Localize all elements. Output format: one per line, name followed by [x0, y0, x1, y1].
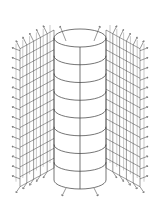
lattice-horizontal [106, 79, 140, 98]
lattice-horizontal [20, 40, 54, 59]
lattice-horizontal [20, 109, 54, 128]
lattice-horizontal [106, 168, 140, 187]
lattice-horizontal [20, 138, 54, 157]
vector-arrow-icon [36, 29, 40, 37]
lattice-horizontal [106, 109, 140, 128]
lattice-horizontal [20, 69, 54, 88]
lattice-horizontal [106, 60, 140, 79]
vector-arrow-icon [30, 33, 34, 41]
vector-arrow-icon [94, 26, 100, 41]
lattice-horizontal [106, 89, 140, 108]
lattice-horizontal [106, 99, 140, 118]
lattice-horizontal [106, 50, 140, 69]
cylinder-ring [54, 38, 106, 47]
lattice-horizontal [106, 69, 140, 88]
lattice-horizontal [20, 60, 54, 79]
lattice-horizontal [20, 119, 54, 138]
vector-arrow-icon [126, 33, 130, 41]
lattice-horizontal [20, 99, 54, 118]
lattice-horizontal [20, 168, 54, 187]
vector-arrow-icon [113, 26, 117, 34]
vector-arrow-icon [133, 37, 137, 45]
lattice-horizontal [106, 148, 140, 167]
vector-arrow-icon [60, 26, 66, 41]
vector-arrow-icon [140, 187, 144, 193]
vector-arrow-icon [62, 188, 66, 196]
wireframe-diagram [0, 0, 161, 204]
vector-arrow-icon [23, 37, 27, 45]
lattice-horizontal [106, 138, 140, 157]
vector-arrow-icon [140, 41, 144, 49]
lattice-horizontal [106, 129, 140, 148]
lattice-horizontal [20, 89, 54, 108]
lattice-horizontal [106, 40, 140, 59]
lattice-horizontal [20, 148, 54, 167]
lattice-horizontal [20, 79, 54, 98]
vector-arrow-icon [43, 26, 47, 34]
vector-arrow-icon [16, 187, 20, 193]
lattice-horizontal [106, 119, 140, 138]
lattice-horizontal [106, 30, 140, 49]
lattice-horizontal [106, 158, 140, 177]
diagram-drawing [12, 25, 148, 196]
vector-arrow-icon [120, 29, 124, 37]
lattice-horizontal [20, 30, 54, 49]
vector-arrow-icon [16, 41, 20, 49]
lattice-horizontal [20, 158, 54, 177]
lattice-horizontal [20, 50, 54, 69]
vector-arrow-icon [94, 188, 98, 196]
lattice-horizontal [20, 129, 54, 148]
